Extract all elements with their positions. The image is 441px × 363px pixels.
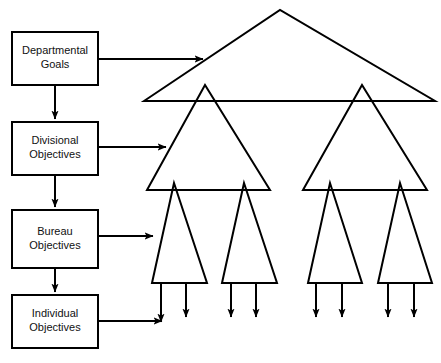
triangle-outline-departmental-triangle <box>144 10 435 101</box>
box-bureau-objectives[interactable]: BureauObjectives <box>12 210 98 268</box>
box-label-line2-departmental-goals: Goals <box>41 58 70 70</box>
diagram-canvas: DepartmentalGoalsDivisionalObjectivesBur… <box>0 0 441 363</box>
triangle-bureau-triangle-1 <box>152 183 207 283</box>
box-label-line1-individual-objectives: Individual <box>32 307 78 319</box>
box-label-line2-divisional-objectives: Objectives <box>29 148 81 160</box>
box-label-line1-divisional-objectives: Divisional <box>31 134 78 146</box>
triangle-bureau-triangle-2 <box>222 183 277 283</box>
triangle-outline-bureau-triangle-4 <box>378 183 432 283</box>
individual-arrows-layer <box>161 283 414 322</box>
box-divisional-objectives[interactable]: DivisionalObjectives <box>12 122 98 175</box>
box-label-line1-bureau-objectives: Bureau <box>37 225 72 237</box>
box-label-line2-individual-objectives: Objectives <box>29 321 81 333</box>
triangle-bureau-triangle-4 <box>378 183 432 283</box>
box-departmental-goals[interactable]: DepartmentalGoals <box>12 32 98 85</box>
triangle-bureau-triangle-3 <box>308 183 362 283</box>
triangle-outline-bureau-triangle-1 <box>152 183 207 283</box>
triangle-outline-bureau-triangle-3 <box>308 183 362 283</box>
triangle-departmental-triangle <box>144 10 435 101</box>
box-label-line2-bureau-objectives: Objectives <box>29 239 81 251</box>
objectives-hierarchy-diagram: DepartmentalGoalsDivisionalObjectivesBur… <box>0 0 441 363</box>
triangle-hierarchy-layer <box>144 10 435 283</box>
box-label-line1-departmental-goals: Departmental <box>22 44 88 56</box>
box-individual-objectives[interactable]: IndividualObjectives <box>12 295 98 348</box>
triangle-outline-bureau-triangle-2 <box>222 183 277 283</box>
